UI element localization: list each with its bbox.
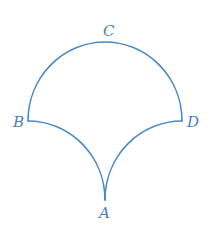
arc-ba bbox=[28, 121, 105, 200]
label-d: D bbox=[186, 113, 199, 131]
diagram-canvas: C B D A bbox=[0, 0, 214, 229]
label-b: B bbox=[12, 113, 24, 131]
label-a: A bbox=[97, 204, 110, 222]
arc-bcd bbox=[28, 42, 182, 121]
arc-da bbox=[105, 121, 182, 200]
label-c: C bbox=[103, 22, 115, 40]
